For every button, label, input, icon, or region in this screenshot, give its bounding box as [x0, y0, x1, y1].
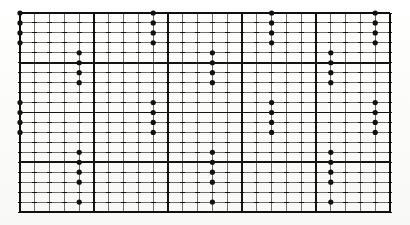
- data-point: [210, 150, 215, 155]
- data-point: [77, 160, 82, 165]
- data-point: [269, 40, 274, 45]
- data-point: [328, 180, 333, 185]
- data-point: [151, 40, 156, 45]
- data-point: [328, 70, 333, 75]
- data-point: [328, 50, 333, 55]
- data-point: [328, 199, 333, 204]
- data-point: [17, 40, 22, 45]
- data-point: [269, 10, 274, 15]
- data-point: [210, 180, 215, 185]
- data-point: [210, 199, 215, 204]
- data-point: [328, 170, 333, 175]
- data-point: [77, 180, 82, 185]
- data-point: [77, 199, 82, 204]
- data-point: [77, 60, 82, 65]
- data-point: [373, 130, 378, 135]
- data-point: [269, 30, 274, 35]
- data-point: [328, 80, 333, 85]
- data-point: [17, 10, 22, 15]
- data-point: [373, 110, 378, 115]
- data-point: [77, 150, 82, 155]
- data-point: [328, 60, 333, 65]
- data-point: [328, 150, 333, 155]
- data-point: [269, 110, 274, 115]
- data-point: [17, 20, 22, 25]
- data-point: [77, 80, 82, 85]
- data-point: [151, 20, 156, 25]
- data-point: [269, 100, 274, 105]
- data-point: [151, 10, 156, 15]
- data-point: [210, 60, 215, 65]
- data-point: [77, 70, 82, 75]
- data-point: [373, 10, 378, 15]
- data-point: [17, 110, 22, 115]
- data-point: [17, 120, 22, 125]
- data-point: [17, 130, 22, 135]
- data-point: [269, 20, 274, 25]
- data-point: [17, 30, 22, 35]
- data-point: [151, 130, 156, 135]
- data-point: [373, 30, 378, 35]
- data-point: [373, 40, 378, 45]
- data-point: [151, 30, 156, 35]
- data-point: [151, 110, 156, 115]
- data-point: [210, 170, 215, 175]
- data-point: [210, 80, 215, 85]
- data-point: [269, 120, 274, 125]
- data-point: [17, 100, 22, 105]
- data-point: [151, 100, 156, 105]
- data-point: [210, 50, 215, 55]
- data-point: [269, 130, 274, 135]
- data-point: [151, 120, 156, 125]
- data-point: [373, 20, 378, 25]
- data-point: [77, 50, 82, 55]
- dot-matrix-grid: [0, 0, 410, 225]
- data-point: [77, 170, 82, 175]
- data-point: [210, 160, 215, 165]
- figure-canvas: [0, 0, 410, 225]
- grid-plate: [0, 0, 410, 225]
- data-point: [210, 70, 215, 75]
- data-point: [328, 160, 333, 165]
- data-point: [373, 100, 378, 105]
- data-point: [373, 120, 378, 125]
